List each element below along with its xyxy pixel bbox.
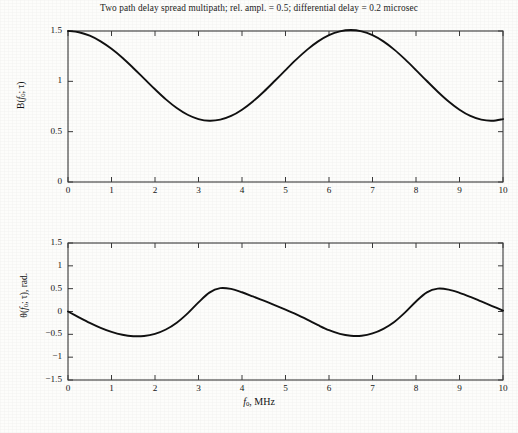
data-curve: [68, 288, 503, 336]
phase-panel: θ(f0; τ), rad. f0, MHz 012345678910−1.5−…: [0, 228, 518, 433]
x-tick-label: 5: [272, 185, 300, 195]
magnitude-panel: B(f0; τ) 01234567891000.511.5: [0, 18, 518, 203]
x-tick-label: 8: [402, 383, 430, 393]
y-tick-label: −1: [28, 351, 62, 361]
figure-two-path-multipath: Two path delay spread multipath; rel. am…: [0, 0, 518, 433]
y-tick-label: 1: [28, 260, 62, 270]
x-tick-label: 8: [402, 185, 430, 195]
y-tick-label: 0: [28, 306, 62, 316]
figure-title: Two path delay spread multipath; rel. am…: [0, 3, 518, 13]
x-tick-label: 7: [359, 383, 387, 393]
x-tick-label: 9: [446, 185, 474, 195]
x-tick-label: 0: [54, 185, 82, 195]
x-tick-label: 7: [359, 185, 387, 195]
y-tick-label: 1.5: [28, 237, 62, 247]
x-tick-label: 1: [98, 383, 126, 393]
x-tick-label: 10: [489, 383, 517, 393]
x-tick-label: 9: [446, 383, 474, 393]
y-tick-label: 0: [28, 176, 62, 186]
y-tick-label: 0.5: [28, 283, 62, 293]
x-axis-label: f0, MHz: [0, 396, 518, 407]
data-curve: [68, 30, 503, 121]
y-tick-label: 0.5: [28, 126, 62, 136]
x-tick-label: 2: [141, 185, 169, 195]
x-tick-label: 2: [141, 383, 169, 393]
x-tick-label: 10: [489, 185, 517, 195]
magnitude-y-axis-label: B(f0; τ): [16, 60, 26, 130]
x-tick-label: 5: [272, 383, 300, 393]
magnitude-plot-area: [0, 18, 518, 203]
x-tick-label: 4: [228, 185, 256, 195]
y-tick-label: −1.5: [28, 374, 62, 384]
y-tick-label: 1.5: [28, 25, 62, 35]
x-tick-label: 0: [54, 383, 82, 393]
x-tick-label: 6: [315, 383, 343, 393]
x-tick-label: 3: [185, 383, 213, 393]
y-tick-label: −0.5: [28, 328, 62, 338]
x-tick-label: 3: [185, 185, 213, 195]
x-tick-label: 4: [228, 383, 256, 393]
x-tick-label: 6: [315, 185, 343, 195]
y-tick-label: 1: [28, 75, 62, 85]
x-tick-label: 1: [98, 185, 126, 195]
